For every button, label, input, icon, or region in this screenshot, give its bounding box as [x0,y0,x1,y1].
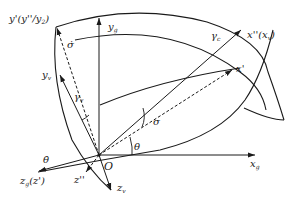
coordinate-frame-diagram: O yg xg zg(z') y'(y''/y2) yv x''(xv) x' … [0,0,287,203]
arc-xdd [244,108,284,120]
label-xg: xg [250,158,260,171]
label-sigma: σ [153,116,161,127]
axis-xdd [99,30,241,155]
label-sigma-dot: σ̇ [67,39,75,50]
label-xprime: x' [236,63,244,74]
label-yg: yg [107,21,118,34]
axis-yv [60,75,99,155]
label-gamma-v: γv [74,91,84,103]
diagram-canvas: O yg xg zg(z') y'(y''/y2) yv x''(xv) x' … [0,0,287,203]
label-gamma-c: γc [211,30,221,42]
label-yv: yv [41,69,52,81]
label-yprime: y'(y''/y2) [8,13,49,25]
label-xdd: x''(xv) [247,29,275,41]
angle-arc-theta [130,137,132,155]
label-zg: zg(z') [19,175,45,188]
label-zv: zv [116,182,126,194]
label-zdd: z'' [73,174,85,185]
origin-point [97,153,100,156]
arc-yv-xdd [100,68,240,105]
label-theta-dot: θ̇ [43,154,49,165]
label-theta: θ [134,141,140,152]
label-origin: O [104,160,113,173]
